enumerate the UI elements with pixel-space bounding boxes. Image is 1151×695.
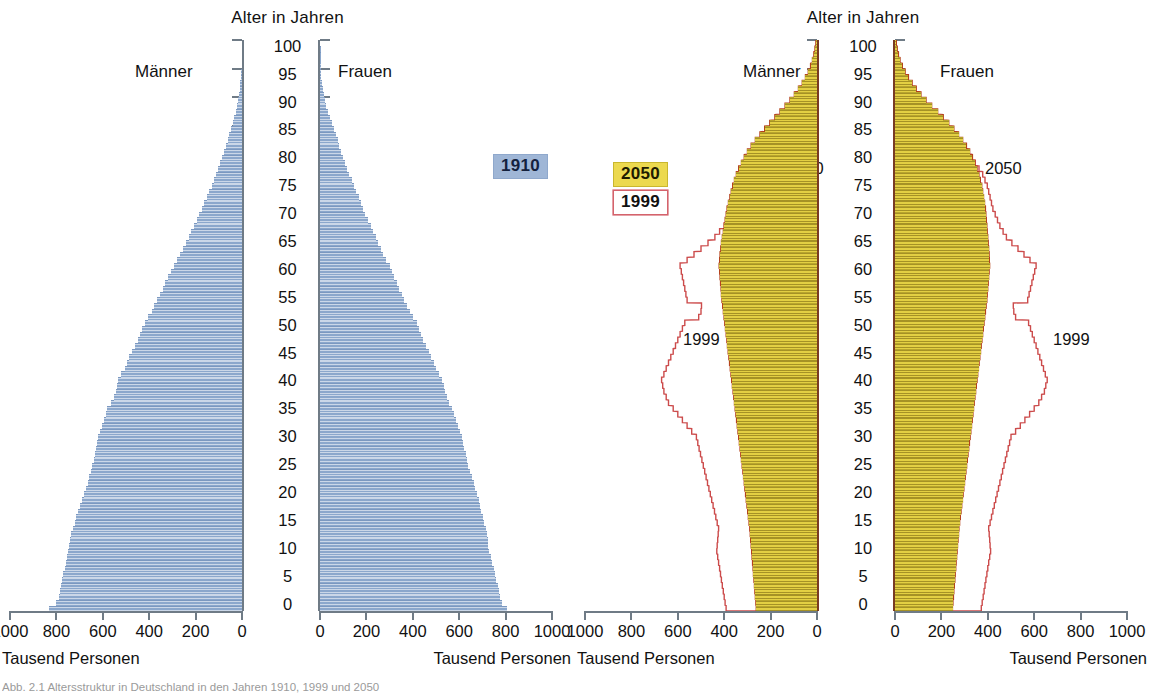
bar-age-15 [75, 520, 243, 526]
x-tick-label-male-400: 400 [710, 622, 738, 641]
bar-age-11 [69, 543, 242, 549]
bar-age-35 [107, 406, 242, 412]
bar-age-93 [241, 75, 242, 81]
bar-age-11 [751, 543, 817, 549]
bar-age-47 [138, 337, 242, 343]
bar-age-16 [895, 514, 960, 520]
bar-age-82 [228, 137, 242, 143]
x-tickmark-female-800 [1080, 611, 1082, 620]
bar-age-92 [802, 80, 817, 86]
bar-age-31 [100, 429, 242, 435]
bar-age-4 [895, 583, 954, 589]
bar-age-28 [320, 446, 464, 452]
bar-age-37 [114, 394, 242, 400]
bar-age-30 [895, 434, 970, 440]
panel-2050-male-x-axis [585, 611, 817, 613]
bar-age-64 [186, 240, 242, 246]
bar-age-85 [233, 120, 243, 126]
bar-age-19 [320, 497, 479, 503]
bar-age-30 [320, 434, 462, 440]
bar-age-33 [737, 417, 818, 423]
bar-age-75 [734, 177, 817, 183]
panel-2050-male-bars [585, 40, 817, 611]
bar-age-33 [104, 417, 242, 423]
bar-age-77 [739, 166, 817, 172]
bar-age-43 [730, 360, 817, 366]
bar-age-1 [56, 600, 242, 606]
bar-age-76 [895, 172, 979, 178]
x-tickmark-male-0 [816, 611, 818, 620]
bar-age-83 [320, 132, 336, 138]
bar-age-39 [320, 383, 444, 389]
bar-age-2 [895, 594, 953, 600]
bar-age-81 [320, 143, 339, 149]
bar-age-36 [734, 400, 817, 406]
bar-age-80 [895, 149, 970, 155]
bar-age-73 [320, 189, 356, 195]
bar-age-22 [744, 480, 817, 486]
x-tickmark-female-800 [505, 611, 507, 620]
bar-age-14 [895, 526, 959, 532]
bar-age-32 [320, 423, 458, 429]
bar-age-15 [320, 520, 484, 526]
bar-age-60 [719, 263, 817, 269]
panel-2050-y-axis: 1009590858075706560555045403530252015105… [825, 40, 901, 610]
bar-age-1 [320, 600, 502, 606]
bar-age-84 [231, 126, 242, 132]
bar-age-2 [59, 594, 242, 600]
bar-age-94 [895, 69, 905, 75]
bar-age-10 [68, 549, 242, 555]
panel-1910-male-x-axis [10, 611, 242, 613]
x-tick-label-male-0: 0 [812, 622, 821, 641]
x-tick-label-female-800: 800 [1067, 622, 1095, 641]
bar-age-75 [320, 177, 352, 183]
bar-age-52 [152, 309, 242, 315]
bar-age-51 [320, 314, 413, 320]
bar-age-94 [320, 69, 321, 75]
x-tickmark-male-800 [630, 611, 632, 620]
bar-age-47 [895, 337, 982, 343]
bar-age-27 [895, 451, 968, 457]
bar-age-75 [214, 177, 242, 183]
bar-age-20 [84, 491, 242, 497]
bar-age-24 [91, 469, 242, 475]
bar-age-86 [775, 115, 817, 121]
bar-age-90 [320, 92, 324, 98]
bar-age-70 [202, 206, 242, 212]
bar-age-74 [733, 183, 817, 189]
x-tickmark-female-400 [412, 611, 414, 620]
bar-age-9 [752, 554, 817, 560]
bar-age-98 [895, 46, 897, 52]
bar-age-81 [226, 143, 242, 149]
bar-age-53 [895, 303, 986, 309]
bar-age-82 [895, 137, 963, 143]
bar-age-79 [320, 155, 343, 161]
y-tick-45: 45 [825, 347, 901, 359]
bar-age-8 [66, 560, 242, 566]
bar-age-57 [320, 280, 397, 286]
bar-age-4 [754, 583, 817, 589]
y-tick-15: 15 [825, 514, 901, 526]
bar-age-56 [320, 286, 399, 292]
bar-age-25 [320, 463, 468, 469]
y-tick-80: 80 [250, 152, 326, 164]
bar-age-94 [808, 69, 817, 75]
bar-age-78 [741, 160, 817, 166]
bar-age-39 [117, 383, 242, 389]
x-tickmark-female-1000 [1126, 611, 1128, 620]
y-tick-10: 10 [250, 542, 326, 554]
bar-age-76 [736, 172, 817, 178]
bar-age-50 [895, 320, 984, 326]
bar-age-41 [320, 371, 439, 377]
bar-age-55 [320, 292, 402, 298]
bar-age-22 [88, 480, 243, 486]
bar-age-61 [320, 257, 386, 263]
bar-age-42 [730, 366, 817, 372]
y-tick-85: 85 [825, 124, 901, 136]
x-tickmark-female-0 [319, 611, 321, 620]
bar-age-71 [320, 200, 361, 206]
bar-age-90 [794, 92, 817, 98]
bar-age-71 [728, 200, 817, 206]
y-tick-45: 45 [250, 347, 326, 359]
bar-age-32 [737, 423, 817, 429]
